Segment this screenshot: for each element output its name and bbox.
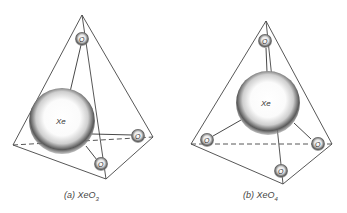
caption-b-text: (b) XeO [243, 190, 275, 200]
oxygen-label: O [98, 161, 104, 168]
caption-b: (b) XeO4 [243, 190, 278, 202]
caption-a-text: (a) XeO [64, 190, 96, 200]
panel-a-xeo3: Xe O O O [13, 15, 153, 179]
caption-b-subscript: 4 [275, 196, 278, 202]
oxygen-label: O [204, 137, 210, 144]
oxygen-label: O [262, 38, 268, 45]
oxygen-label: O [315, 141, 321, 148]
caption-a-subscript: 3 [96, 196, 99, 202]
caption-a: (a) XeO3 [64, 190, 99, 202]
oxygen-label: O [79, 36, 85, 43]
oxygen-label: O [278, 168, 284, 175]
xenon-label: Xe [55, 117, 66, 126]
molecular-geometry-figure: Xe O O O Xe O O O O [0, 0, 347, 213]
xenon-label: Xe [260, 99, 271, 108]
panel-b-xeo4: Xe O O O O [191, 21, 332, 184]
oxygen-label: O [135, 133, 141, 140]
